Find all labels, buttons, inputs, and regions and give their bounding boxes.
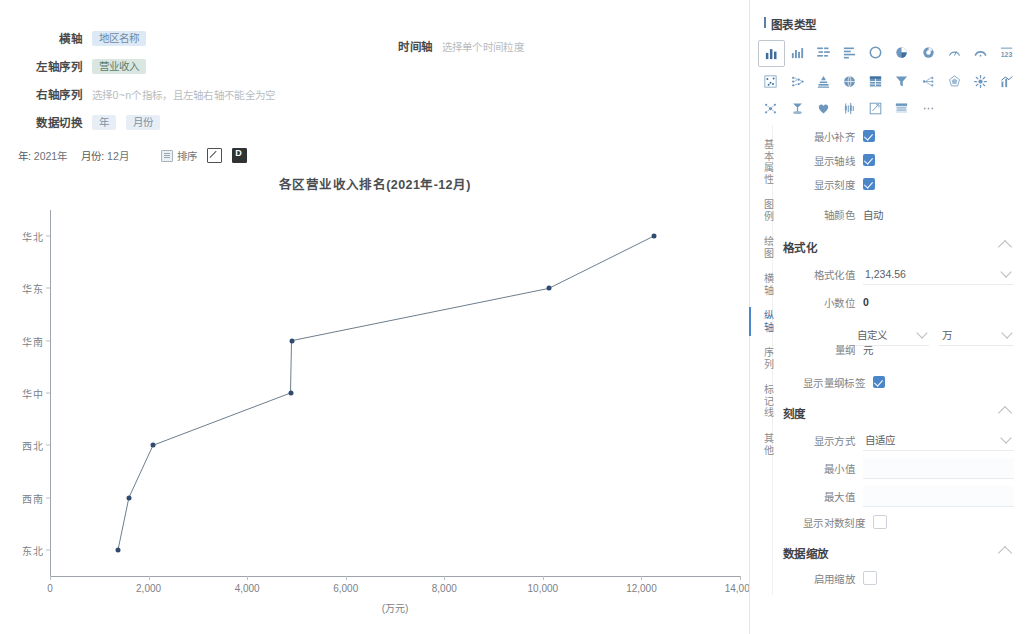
funnel-chart-icon[interactable] [889, 69, 914, 94]
series-line [50, 210, 740, 576]
chevron-up-icon-scale[interactable] [998, 406, 1012, 420]
network-chart-icon[interactable] [758, 96, 783, 121]
select-dimension-unit[interactable]: 万 [939, 325, 1014, 346]
field-label-enable-zoom: 启用缩放 [781, 571, 863, 586]
donut-chart-icon[interactable] [916, 40, 941, 65]
gauge-half-icon[interactable] [942, 40, 967, 65]
input-scale-min[interactable] [863, 458, 1014, 479]
field-value-decimal[interactable]: 0 [863, 296, 869, 308]
field-label-axis-color: 轴颜色 [781, 207, 863, 222]
panel-tab-2[interactable]: 绘图 [750, 230, 772, 265]
panel-tab-3[interactable]: 横轴 [750, 267, 772, 302]
number-123-icon[interactable]: 123 [994, 40, 1019, 65]
sunburst-chart-icon[interactable] [968, 69, 993, 94]
column-chart-icon[interactable] [758, 40, 785, 67]
relation-graph-icon[interactable] [916, 69, 941, 94]
y-axis-tick-label: 华中 [22, 386, 43, 401]
data-point[interactable] [546, 286, 551, 291]
select-format-value[interactable]: 1,234.56 [863, 264, 1014, 285]
field-format-value: 格式化值 1,234.56 [781, 261, 1014, 287]
data-point[interactable] [151, 443, 156, 448]
data-point[interactable] [288, 391, 293, 396]
data-point[interactable] [126, 495, 131, 500]
heart-rate-icon[interactable] [811, 96, 836, 121]
pyramid-chart-icon[interactable] [811, 69, 836, 94]
bar-group-icon[interactable] [785, 40, 810, 65]
ring-chart-icon[interactable] [863, 40, 888, 65]
toolbar-year[interactable]: 年: 2021年 [18, 148, 67, 163]
checkbox-show-dimension-label[interactable] [873, 376, 885, 388]
checkbox-show-ticks[interactable] [863, 178, 875, 190]
sort-button[interactable]: 排序 [161, 148, 197, 163]
panel-tab-5[interactable]: 序列 [750, 341, 772, 376]
input-scale-max[interactable] [863, 486, 1014, 507]
config-chip-month[interactable]: 月份 [126, 115, 160, 130]
export-doc-icon[interactable] [232, 148, 247, 163]
word-cloud-icon[interactable] [785, 96, 810, 121]
config-chip-revenue[interactable]: 营业收入 [92, 59, 146, 74]
data-point[interactable] [651, 234, 656, 239]
section-format[interactable]: 格式化 [781, 229, 1014, 261]
panel-tab-0[interactable]: 基本属性 [750, 133, 772, 191]
chart-type-icon-grid[interactable]: 123 [750, 32, 1026, 125]
panel-content-yaxis: 最小补齐 显示轴线 显示刻度 轴颜色 自动 格式化 [773, 125, 1026, 595]
config-form: 横轴 地区名称 左轴序列 营业收入 右轴序列 选择0~n个指标，且左轴右轴不能全… [0, 24, 750, 136]
chevron-up-icon-zoom[interactable] [998, 546, 1012, 560]
panel-tab-4[interactable]: 纵轴 [750, 304, 772, 339]
x-axis-tick-label: 0 [47, 583, 53, 594]
data-point[interactable] [289, 338, 294, 343]
butterfly-chart-icon[interactable] [811, 40, 836, 65]
pie-chart-icon[interactable] [889, 40, 914, 65]
candlestick-icon[interactable] [837, 96, 862, 121]
panel-vertical-tabs[interactable]: 基本属性图例绘图横轴纵轴序列标记线其他 [750, 125, 773, 595]
checkbox-min-fill[interactable] [863, 130, 875, 142]
section-zoom[interactable]: 数据缩放 [781, 535, 1014, 567]
config-row-left-series: 左轴序列 营业收入 [0, 52, 750, 80]
panel-tab-7[interactable]: 其他 [750, 427, 772, 462]
field-label-show-dimension-label: 显示量纲标签 [781, 375, 873, 390]
table-chart-icon[interactable] [863, 69, 888, 94]
field-enable-zoom: 启用缩放 [781, 567, 1014, 589]
toolbar-year-value: 2021年 [34, 150, 67, 162]
checkbox-show-axisline[interactable] [863, 154, 875, 166]
chart-plot-area[interactable]: (万元) 02,0004,0006,0008,00010,00012,00014… [50, 210, 740, 576]
config-label-data-switch: 数据切换 [18, 114, 82, 130]
toolbar-month[interactable]: 月份: 12月 [81, 148, 129, 163]
x-axis-tick-label: 2,000 [136, 583, 161, 594]
panel-tab-label: 纵轴 [762, 310, 773, 333]
globe-map-icon[interactable] [837, 69, 862, 94]
field-scale-min: 最小值 [781, 455, 1014, 481]
pen-square-icon[interactable] [207, 148, 222, 163]
toolbar-month-value: 12月 [107, 150, 129, 162]
select-display-mode[interactable]: 自适应 [863, 430, 1014, 451]
scatter-matrix-icon[interactable] [758, 69, 783, 94]
field-show-axisline: 显示轴线 [781, 149, 1014, 171]
input-dimension-suffix[interactable]: 元 [863, 342, 873, 357]
config-label-left-series: 左轴序列 [18, 58, 82, 74]
more-options-icon[interactable] [916, 96, 941, 121]
field-show-dimension-label: 显示量纲标签 [781, 371, 1014, 393]
list-card-icon[interactable] [889, 96, 914, 121]
panel-tab-6[interactable]: 标记线 [750, 378, 772, 425]
horizontal-bar-icon[interactable] [837, 40, 862, 65]
panel-tab-1[interactable]: 图例 [750, 193, 772, 228]
checkbox-log-scale[interactable] [873, 515, 887, 529]
section-scale[interactable]: 刻度 [781, 395, 1014, 427]
x-axis-tick [346, 576, 347, 580]
chevron-up-icon-format[interactable] [998, 240, 1012, 254]
checkbox-enable-zoom[interactable] [863, 571, 877, 585]
svg-text:123: 123 [1001, 51, 1013, 58]
edit-square-icon[interactable] [863, 96, 888, 121]
x-axis-unit-label: (万元) [50, 600, 740, 615]
gauge-arc-icon[interactable] [968, 40, 993, 65]
radar-chart-icon[interactable] [942, 69, 967, 94]
x-axis-tick-label: 12,000 [626, 583, 657, 594]
data-point[interactable] [116, 547, 121, 552]
combo-chart-icon[interactable] [994, 69, 1019, 94]
tree-chart-icon[interactable] [785, 69, 810, 94]
field-value-axis-color[interactable]: 自动 [863, 207, 883, 222]
section-title-scale: 刻度 [783, 405, 806, 421]
config-chip-year[interactable]: 年 [92, 115, 116, 130]
config-chip-region-name[interactable]: 地区名称 [92, 31, 146, 46]
chevron-down-icon-display-mode [1000, 432, 1011, 443]
